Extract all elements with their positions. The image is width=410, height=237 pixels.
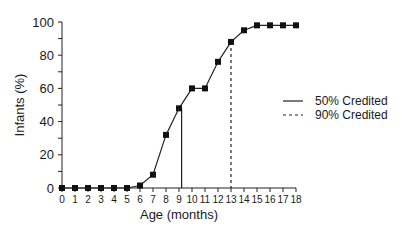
data-point-marker xyxy=(98,185,104,191)
x-axis: 0123456789101112131415161718 xyxy=(59,188,302,205)
data-point-marker xyxy=(176,105,182,111)
data-point-marker xyxy=(228,39,234,45)
data-point-marker xyxy=(280,22,286,28)
y-axis-label: Infants (%) xyxy=(12,74,27,137)
legend: 50% Credited 90% Credited xyxy=(283,94,388,122)
data-point-marker xyxy=(137,183,143,189)
data-point-marker xyxy=(241,27,247,33)
x-tick-label: 12 xyxy=(212,194,224,205)
x-tick-label: 6 xyxy=(137,194,143,205)
data-series xyxy=(59,22,299,191)
x-tick-label: 4 xyxy=(111,194,117,205)
y-tick-label: 20 xyxy=(40,147,54,162)
x-tick-label: 5 xyxy=(124,194,130,205)
x-tick-label: 1 xyxy=(72,194,78,205)
data-point-marker xyxy=(215,59,221,65)
data-point-marker xyxy=(202,85,208,91)
x-tick-label: 2 xyxy=(85,194,91,205)
legend-label-50: 50% Credited xyxy=(315,94,388,108)
x-tick-label: 0 xyxy=(59,194,65,205)
x-tick-label: 17 xyxy=(277,194,289,205)
chart: 020406080100 012345678910111213141516171… xyxy=(0,0,410,237)
y-tick-label: 0 xyxy=(47,181,54,196)
x-tick-label: 18 xyxy=(290,194,302,205)
x-tick-label: 3 xyxy=(98,194,104,205)
y-tick-label: 60 xyxy=(40,81,54,96)
y-tick-label: 80 xyxy=(40,48,54,63)
x-tick-label: 13 xyxy=(225,194,237,205)
x-tick-label: 9 xyxy=(176,194,182,205)
x-tick-label: 7 xyxy=(150,194,156,205)
data-point-marker xyxy=(163,132,169,138)
data-point-marker xyxy=(124,185,130,191)
x-tick-label: 11 xyxy=(200,194,211,205)
x-tick-label: 15 xyxy=(251,194,263,205)
y-axis: 020406080100 xyxy=(32,15,62,196)
x-tick-label: 16 xyxy=(264,194,276,205)
reference-lines xyxy=(182,42,231,188)
x-tick-label: 14 xyxy=(238,194,250,205)
data-point-marker xyxy=(59,185,65,191)
legend-label-90: 90% Credited xyxy=(315,108,388,122)
data-point-marker xyxy=(72,185,78,191)
x-tick-label: 8 xyxy=(163,194,169,205)
x-tick-label: 10 xyxy=(186,194,198,205)
y-tick-label: 40 xyxy=(40,114,54,129)
data-point-marker xyxy=(189,85,195,91)
data-point-marker xyxy=(111,185,117,191)
x-axis-label: Age (months) xyxy=(140,207,218,222)
data-point-marker xyxy=(267,22,273,28)
y-tick-label: 100 xyxy=(32,15,54,30)
data-point-marker xyxy=(293,22,299,28)
data-point-marker xyxy=(254,22,260,28)
data-point-marker xyxy=(85,185,91,191)
data-point-marker xyxy=(150,172,156,178)
